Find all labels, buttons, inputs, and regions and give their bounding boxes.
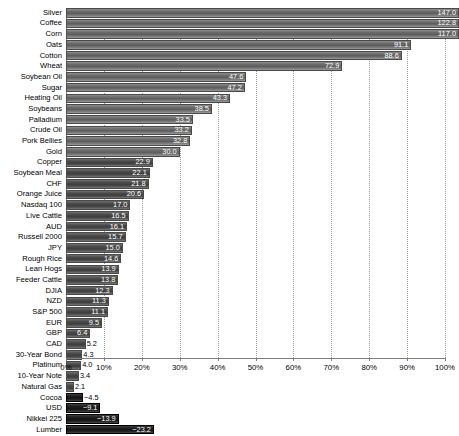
bar-row: GBP6.4: [66, 329, 445, 339]
bar-row: Heating Oil43.3: [66, 94, 445, 104]
value-label: 91.1: [394, 41, 408, 49]
bar: 47.2: [66, 83, 245, 93]
bar-row: Rough Rice14.6: [66, 254, 445, 264]
bar: 22.9: [66, 158, 153, 168]
value-label: 88.6: [384, 52, 398, 60]
bar: 33.2: [66, 126, 192, 136]
category-label: Platinum: [32, 361, 62, 369]
category-label: Lean Hogs: [25, 265, 62, 273]
bar-row: Coffee122.8: [66, 19, 445, 29]
x-tick-label: 30%: [172, 363, 188, 372]
bar: 15.7: [66, 232, 126, 242]
x-tick-label: 10%: [96, 363, 112, 372]
value-label: 11.3: [92, 297, 106, 305]
category-label: Gold: [46, 148, 62, 156]
bar-row: USD−9.1: [66, 403, 445, 413]
category-label: S&P 500: [32, 308, 62, 316]
bar-row: EUR9.5: [66, 318, 445, 328]
bar-row: Silver147.0: [66, 8, 445, 18]
value-label: 47.6: [229, 73, 243, 81]
x-tick: [104, 358, 105, 361]
category-label: Cocoa: [40, 394, 62, 402]
bar: −23.2: [66, 425, 154, 435]
bar-row: Gold30.0: [66, 147, 445, 157]
bar: 13.9: [66, 265, 119, 275]
plot-area: Silver147.0Coffee122.8Corn117.0Oats91.1C…: [66, 8, 445, 358]
category-label: Russell 2000: [18, 233, 62, 241]
category-label: CAD: [46, 340, 62, 348]
category-label: Wheat: [40, 62, 62, 70]
value-label: 14.6: [104, 255, 118, 263]
x-tick: [66, 358, 67, 361]
category-label: Heating Oil: [24, 94, 62, 102]
bar: 16.1: [66, 222, 127, 232]
bar: 14.6: [66, 254, 121, 264]
category-label: Oats: [46, 41, 62, 49]
value-label: 16.1: [110, 223, 124, 231]
bar-row: Soybeans38.5: [66, 104, 445, 114]
x-tick: [293, 358, 294, 361]
value-label: 117.0: [438, 30, 456, 38]
bar-row: Nasdaq 10017.0: [66, 200, 445, 210]
bar-row: Live Cattle16.5: [66, 211, 445, 221]
bar-row: NZD11.3: [66, 297, 445, 307]
bar: 22.1: [66, 168, 150, 178]
bar-row: DJIA12.3: [66, 286, 445, 296]
bar-row: CAD5.2: [66, 339, 445, 349]
value-label: 11.1: [91, 308, 105, 316]
bar: 147.0: [66, 8, 459, 18]
bar-row: Feeder Cattle13.8: [66, 275, 445, 285]
category-label: Nasdaq 100: [21, 201, 62, 209]
bar-row: Soybean Oil47.6: [66, 72, 445, 82]
value-label: −9.1: [83, 404, 98, 412]
category-label: 10-Year Note: [18, 372, 62, 380]
bar: 21.8: [66, 179, 149, 189]
bar: 20.6: [66, 190, 144, 200]
category-label: Feeder Cattle: [16, 276, 62, 284]
value-label: 30.0: [162, 148, 176, 156]
bar: −13.9: [66, 414, 119, 424]
category-label: Nikkei 225: [27, 415, 62, 423]
bar: 15.0: [66, 243, 123, 253]
value-label: 5.2: [87, 340, 97, 348]
value-label: 15.7: [108, 233, 122, 241]
bar-row: Crude Oil33.2: [66, 126, 445, 136]
bar-row: Lean Hogs13.9: [66, 265, 445, 275]
value-label: 33.2: [174, 126, 188, 134]
x-tick-label: 70%: [323, 363, 339, 372]
x-tick-label: 40%: [210, 363, 226, 372]
value-label: −4.5: [84, 394, 99, 402]
bar-row: Wheat72.9: [66, 61, 445, 71]
bar: 5.2: [66, 339, 86, 349]
x-tick-label: 50%: [248, 363, 264, 372]
category-label: Live Cattle: [26, 212, 62, 220]
bar-row: Soybean Meal22.1: [66, 168, 445, 178]
bar: −9.1: [66, 403, 100, 413]
value-label: 20.6: [127, 190, 141, 198]
bar-row: AUD16.1: [66, 222, 445, 232]
bar-row: Oats91.1: [66, 40, 445, 50]
value-label: 147.0: [438, 9, 457, 17]
bar-row: CHF21.8: [66, 179, 445, 189]
value-label: 21.8: [131, 180, 145, 188]
bar: 11.3: [66, 297, 109, 307]
x-tick-label: 0%: [60, 363, 71, 372]
value-label: −13.9: [97, 415, 116, 423]
bar: 6.4: [66, 329, 90, 339]
category-label: AUD: [46, 223, 62, 231]
x-tick: [331, 358, 332, 361]
bar-row: Sugar47.2: [66, 83, 445, 93]
value-label: 22.9: [135, 158, 149, 166]
bar: 11.1: [66, 307, 108, 317]
category-label: Soybean Oil: [21, 73, 62, 81]
bar-row: Cotton88.6: [66, 51, 445, 61]
value-label: 33.5: [176, 116, 190, 124]
bar-row: Cocoa−4.5: [66, 393, 445, 403]
bar: 91.1: [66, 40, 411, 50]
category-label: Orange Juice: [17, 190, 62, 198]
bar: 122.8: [66, 19, 459, 29]
category-label: GBP: [46, 329, 62, 337]
x-tick-label: 100%: [435, 363, 455, 372]
category-label: 30-Year Bond: [16, 351, 62, 359]
